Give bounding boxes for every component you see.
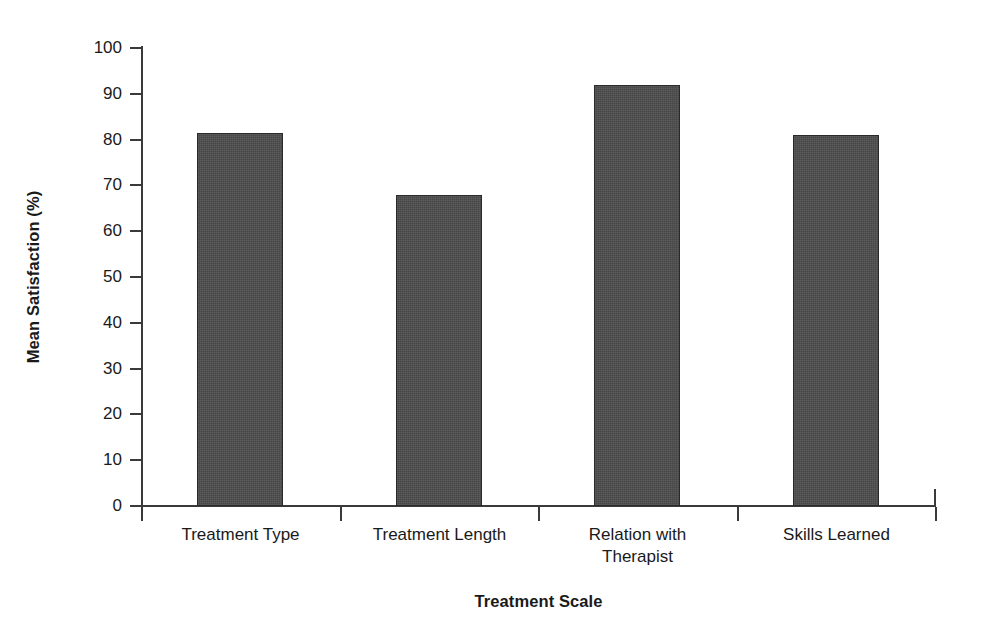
x-axis-tick [538, 507, 540, 521]
x-axis-right-cap [934, 489, 936, 507]
y-axis-tick-label-text: 50 [78, 268, 122, 285]
y-axis-tick-label: 30 [72, 360, 122, 377]
y-axis-tick [130, 139, 141, 141]
y-axis-tick-label-text: 60 [78, 222, 122, 239]
y-axis-tick [130, 368, 141, 370]
y-axis-tick-label-text: 100 [78, 39, 122, 56]
y-axis-tick [130, 47, 141, 49]
y-axis-tick [130, 413, 141, 415]
y-axis-title: Mean Satisfaction (%) [18, 48, 48, 506]
bar [793, 135, 879, 506]
y-axis-line [141, 46, 143, 508]
y-axis-tick [130, 184, 141, 186]
x-axis-tick [935, 507, 937, 521]
y-axis-tick-label-text: 90 [78, 85, 122, 102]
x-axis-title: Treatment Scale [141, 592, 936, 611]
y-axis-tick-label-text: 40 [78, 314, 122, 331]
y-axis-tick [130, 459, 141, 461]
y-axis-tick [130, 322, 141, 324]
y-axis-tick-label: 90 [72, 85, 122, 102]
y-axis-tick-label: 100 [72, 39, 122, 56]
x-axis-category-label: Treatment Type [141, 524, 340, 546]
y-axis-tick-label: 60 [72, 222, 122, 239]
y-axis-tick [130, 93, 141, 95]
y-axis-tick-label: 40 [72, 314, 122, 331]
bar [396, 195, 482, 506]
y-axis-tick-label: 50 [72, 268, 122, 285]
y-axis-tick-label: 20 [72, 405, 122, 422]
y-axis-tick-label: 80 [72, 131, 122, 148]
x-axis-tick [737, 507, 739, 521]
bar-chart-figure: Mean Satisfaction (%) 010203040506070809… [0, 0, 992, 625]
x-axis-tick [141, 507, 143, 521]
bar [594, 85, 680, 506]
y-axis-tick [130, 230, 141, 232]
y-axis-tick-label-text: 10 [78, 451, 122, 468]
x-axis-category-label: Treatment Length [340, 524, 539, 546]
y-axis-tick-label-text: 0 [78, 497, 122, 514]
x-axis-category-label-line: Treatment Length [340, 524, 539, 546]
y-axis-tick [130, 505, 141, 507]
y-axis-tick-label-text: 30 [78, 360, 122, 377]
y-axis-tick-label: 0 [72, 497, 122, 514]
y-axis-tick-label-text: 20 [78, 405, 122, 422]
x-axis-tick [340, 507, 342, 521]
x-axis-category-label: Relation withTherapist [538, 524, 737, 568]
y-axis-tick-label-text: 80 [78, 131, 122, 148]
x-axis-category-label-line: Therapist [538, 546, 737, 568]
x-axis-category-label-line: Relation with [538, 524, 737, 546]
y-axis-tick [130, 276, 141, 278]
y-axis-tick-label: 10 [72, 451, 122, 468]
x-axis-category-label-line: Skills Learned [737, 524, 936, 546]
x-axis-category-label: Skills Learned [737, 524, 936, 546]
y-axis-tick-label: 70 [72, 176, 122, 193]
y-axis-tick-label-text: 70 [78, 176, 122, 193]
bar [197, 133, 283, 506]
x-axis-category-label-line: Treatment Type [141, 524, 340, 546]
